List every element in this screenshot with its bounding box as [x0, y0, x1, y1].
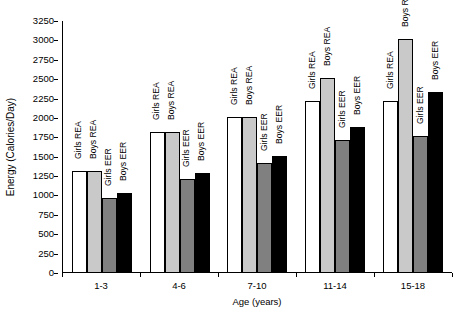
bar[interactable]: Boys EER — [428, 92, 443, 272]
bar-label: Boys REA — [89, 120, 98, 159]
bar-label: Boys REA — [323, 27, 332, 66]
y-tick-label: 1750 — [14, 132, 54, 142]
y-tick-mark — [54, 99, 58, 100]
bar-group: Girls REABoys REAGirls EERBoys EER — [141, 21, 219, 272]
y-tick-mark — [54, 273, 58, 274]
bar-label: Girls REA — [386, 52, 395, 90]
y-tick-mark — [54, 21, 58, 22]
bar[interactable]: Girls REA — [383, 101, 398, 272]
bar-label: Girls EER — [416, 87, 425, 125]
bar[interactable]: Boys REA — [165, 132, 180, 272]
bar[interactable]: Boys EER — [350, 127, 365, 272]
y-tick-mark — [54, 60, 58, 61]
y-tick-mark — [54, 79, 58, 80]
bar[interactable]: Boys REA — [320, 78, 335, 272]
y-axis-tick-labels: 3250300027502500225020001750150012501000… — [18, 21, 58, 273]
bar[interactable]: Girls EER — [335, 140, 350, 272]
bar-groups: Girls REABoys REAGirls EERBoys EERGirls … — [63, 21, 452, 272]
bar-set: Girls REABoys REAGirls EERBoys EER — [227, 21, 287, 272]
bar-label: Boys REA — [245, 66, 254, 105]
bar-label: Girls EER — [104, 149, 113, 187]
x-tick-mark — [218, 273, 219, 277]
x-tick-mark — [374, 273, 375, 277]
bar[interactable]: Girls REA — [305, 101, 320, 272]
y-tick-label: 1500 — [14, 152, 54, 162]
bar[interactable]: Boys EER — [195, 173, 210, 272]
bar[interactable]: Boys EER — [272, 156, 287, 272]
y-tick-label: 2250 — [14, 94, 54, 104]
y-tick-mark — [54, 215, 58, 216]
y-tick-label: 1000 — [14, 190, 54, 200]
bar-group: Girls REABoys REAGirls EERBoys EER — [374, 21, 452, 272]
bar[interactable]: Girls EER — [257, 163, 272, 272]
y-tick-mark — [54, 195, 58, 196]
bar[interactable]: Girls REA — [72, 171, 87, 272]
bar[interactable]: Boys EER — [117, 193, 132, 272]
y-tick-mark — [54, 137, 58, 138]
y-tick-mark — [54, 176, 58, 177]
bar-label: Girls EER — [338, 90, 347, 128]
bar[interactable]: Girls REA — [150, 132, 165, 272]
y-tick-label: 3000 — [14, 35, 54, 45]
x-tick-label: 4-6 — [140, 280, 218, 291]
bar-set: Girls REABoys REAGirls EERBoys EER — [305, 21, 365, 272]
bar-group: Girls REABoys REAGirls EERBoys EER — [63, 21, 141, 272]
bar-label: Girls REA — [308, 52, 317, 90]
y-tick-mark — [54, 234, 58, 235]
plot-area: Girls REABoys REAGirls EERBoys EERGirls … — [62, 21, 452, 273]
y-tick-label: 3250 — [14, 16, 54, 26]
bar-label: Boys EER — [431, 41, 440, 80]
x-tick-mark — [140, 273, 141, 277]
bar-label: Boys REA — [401, 0, 410, 27]
x-tick-label: 11-14 — [296, 280, 374, 291]
y-tick-mark — [54, 254, 58, 255]
bar-label: Boys EER — [353, 76, 362, 115]
bar-group: Girls REABoys REAGirls EERBoys EER — [296, 21, 374, 272]
bar[interactable]: Boys REA — [242, 117, 257, 272]
bar-label: Boys EER — [119, 142, 128, 181]
x-axis-title: Age (years) — [62, 296, 452, 307]
bar-set: Girls REABoys REAGirls EERBoys EER — [150, 21, 210, 272]
bar-chart: Energy (Calories/Day) 325030002750250022… — [0, 0, 461, 320]
bar-label: Girls EER — [182, 129, 191, 167]
bar[interactable]: Girls EER — [102, 198, 117, 272]
y-tick-mark — [54, 118, 58, 119]
y-tick-mark — [54, 40, 58, 41]
bar-label: Girls REA — [230, 67, 239, 105]
bar[interactable]: Boys REA — [398, 39, 413, 272]
x-tick-label: 7-10 — [218, 280, 296, 291]
y-tick-label: 2000 — [14, 113, 54, 123]
y-tick-label: 2750 — [14, 55, 54, 65]
bar-set: Girls REABoys REAGirls EERBoys EER — [72, 21, 132, 272]
bar-group: Girls REABoys REAGirls EERBoys EER — [219, 21, 297, 272]
bar-label: Girls EER — [260, 114, 269, 152]
bar-label: Girls REA — [152, 83, 161, 121]
bar-label: Boys EER — [275, 105, 284, 144]
bar[interactable]: Girls EER — [413, 136, 428, 272]
bar-label: Girls REA — [74, 121, 83, 159]
x-tick-mark — [452, 273, 453, 277]
y-tick-label: 1250 — [14, 171, 54, 181]
x-tick-mark — [296, 273, 297, 277]
bar-set: Girls REABoys REAGirls EERBoys EER — [383, 21, 443, 272]
bar-label: Boys REA — [167, 81, 176, 120]
bar[interactable]: Boys REA — [87, 171, 102, 272]
x-tick-label: 15-18 — [374, 280, 452, 291]
x-tick-label: 1-3 — [62, 280, 140, 291]
bar-label: Boys EER — [197, 122, 206, 161]
bar[interactable]: Girls EER — [180, 179, 195, 272]
x-tick-mark — [62, 273, 63, 277]
y-tick-label: 0 — [14, 268, 54, 278]
y-tick-label: 750 — [14, 210, 54, 220]
y-tick-label: 2500 — [14, 74, 54, 84]
x-axis-tick-marks — [62, 273, 452, 278]
bar[interactable]: Girls REA — [227, 117, 242, 272]
x-axis-tick-labels: 1-34-67-1011-1415-18 — [62, 280, 452, 291]
y-tick-label: 250 — [14, 249, 54, 259]
y-tick-label: 500 — [14, 229, 54, 239]
y-tick-mark — [54, 157, 58, 158]
